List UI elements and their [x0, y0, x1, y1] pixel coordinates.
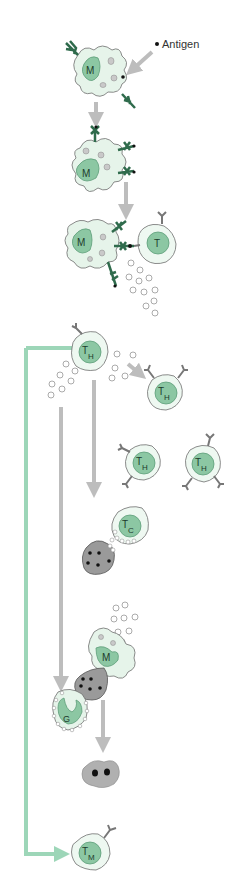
cell-label-sub: M [88, 853, 95, 862]
cell-label-sub: C [128, 526, 134, 535]
macrophage-cell-2: M [72, 125, 136, 191]
cytotoxic-t-cell: T C [108, 507, 148, 552]
immune-response-diagram: Antigen M M M [0, 0, 239, 886]
tcr-receptor-icon [72, 323, 82, 334]
cell-label: M [82, 168, 90, 179]
tcr-receptor-icon [158, 212, 166, 224]
antigen-label: Antigen [162, 38, 199, 50]
cell-label-sub: H [142, 463, 148, 472]
destroyed-cell [82, 761, 119, 788]
mhc-receptor-icon [91, 126, 99, 142]
helper-t-cell-1: T H [144, 365, 188, 410]
mhc-receptor-icon [66, 41, 78, 55]
memory-t-cell: T M [72, 825, 117, 870]
t-cell: T [134, 212, 176, 264]
cell-label-sub: H [164, 393, 170, 402]
cell-label: M [77, 237, 85, 248]
proliferation-arrow [128, 364, 140, 374]
helper-t-cell-2: T H [118, 444, 160, 488]
macrophage-cell-3: M [65, 219, 134, 287]
cell-label-sub: H [201, 464, 207, 473]
antigen-arrow [132, 52, 152, 70]
helper-t-cell-3: T H [182, 434, 224, 490]
cell-label: M [86, 65, 94, 76]
cell-label: G [63, 714, 70, 724]
cell-label: T [154, 238, 160, 249]
memory-bracket-arrow [26, 348, 62, 854]
macrophage-cell-1: M [66, 41, 135, 108]
cytokine-cluster-1 [126, 260, 158, 316]
cell-label-sub: H [88, 352, 94, 361]
cell-label: M [102, 652, 110, 663]
antigen-particle [121, 75, 125, 79]
antigen-label-group: Antigen [155, 38, 199, 50]
granulocyte: G [52, 689, 89, 731]
helper-t-cell-main: T H [72, 323, 109, 371]
mhc-receptor-icon [122, 94, 135, 108]
antigen-dot-icon [155, 42, 159, 46]
tcr-receptor-icon [104, 825, 116, 838]
